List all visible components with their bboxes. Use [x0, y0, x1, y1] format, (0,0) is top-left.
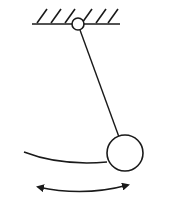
pendulum-rod [80, 30, 119, 137]
double-arrow-motion [38, 185, 128, 192]
pivot-joint [72, 18, 84, 30]
pendulum-bob [107, 135, 143, 171]
swing-arc [24, 152, 107, 163]
pendulum-diagram [0, 0, 193, 199]
